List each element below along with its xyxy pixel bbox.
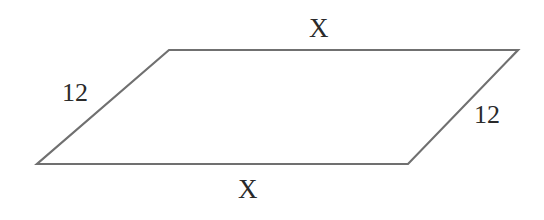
- top-side-label: X: [309, 15, 329, 42]
- left-side-label: 12: [62, 80, 88, 106]
- bottom-side-label: X: [238, 176, 258, 203]
- right-side-label: 12: [474, 102, 500, 128]
- diagram-canvas: X 12 12 X: [0, 0, 544, 220]
- parallelogram-figure: [0, 0, 544, 220]
- parallelogram-shape: [37, 50, 518, 164]
